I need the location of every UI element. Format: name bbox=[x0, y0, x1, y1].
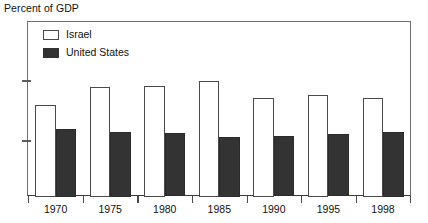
chart-legend: Israel United States bbox=[43, 28, 129, 59]
x-axis-tick-mark bbox=[137, 196, 138, 203]
x-axis-tick-mark bbox=[410, 196, 411, 203]
legend-item-israel: Israel bbox=[43, 28, 129, 41]
x-axis-tick-mark bbox=[356, 196, 357, 203]
x-axis-label-1970: 1970 bbox=[44, 203, 67, 215]
bar-chart: Percent of GDP Israel United States 2040… bbox=[0, 0, 428, 223]
y-axis-tick-mark bbox=[22, 80, 31, 81]
x-axis-tick-mark bbox=[28, 196, 29, 203]
x-axis-label-1995: 1995 bbox=[317, 203, 340, 215]
x-axis-label-1980: 1980 bbox=[153, 203, 176, 215]
x-axis-tick-mark bbox=[83, 196, 84, 203]
open-square-swatch-icon bbox=[43, 30, 59, 40]
x-axis-label-1998: 1998 bbox=[371, 203, 394, 215]
legend-label-united-states: United States bbox=[66, 47, 129, 58]
x-axis-tick-mark bbox=[301, 196, 302, 203]
filled-square-swatch-icon bbox=[43, 48, 59, 58]
x-axis-tick-mark bbox=[192, 196, 193, 203]
y-axis-title: Percent of GDP bbox=[4, 2, 79, 14]
legend-item-united-states: United States bbox=[43, 46, 129, 59]
y-axis-tick-mark bbox=[22, 140, 31, 141]
x-axis-label-1985: 1985 bbox=[208, 203, 231, 215]
x-axis-label-1975: 1975 bbox=[98, 203, 121, 215]
x-axis-tick-mark bbox=[247, 196, 248, 203]
legend-label-israel: Israel bbox=[66, 29, 92, 40]
x-axis-label-1990: 1990 bbox=[262, 203, 285, 215]
